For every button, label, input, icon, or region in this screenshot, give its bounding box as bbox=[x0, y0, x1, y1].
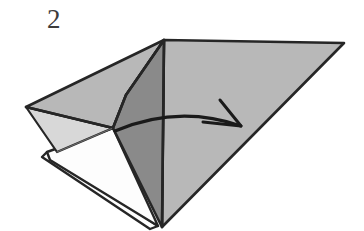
origami-diagram-page: { "figure": { "type": "origami-fold-diag… bbox=[0, 0, 364, 231]
origami-figure bbox=[0, 0, 364, 231]
step-number-label: 2 bbox=[47, 4, 61, 34]
